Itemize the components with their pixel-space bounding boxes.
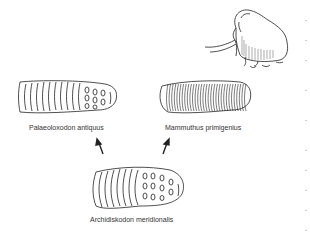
lamella-line	[208, 84, 210, 111]
edge-mark	[305, 230, 307, 231]
lamella-line	[185, 84, 187, 111]
lamella-line	[174, 84, 176, 111]
lamella-line	[219, 84, 221, 111]
edge-mark	[305, 190, 307, 191]
lamella-line	[226, 84, 228, 111]
edge-mark	[305, 170, 307, 171]
lamella-line	[232, 84, 234, 111]
edge-mark	[305, 210, 307, 211]
lamella-line	[216, 84, 218, 111]
edge-mark	[305, 120, 307, 121]
lamella-line	[195, 84, 197, 111]
lamella-line	[198, 84, 200, 111]
lamella-line	[211, 84, 213, 111]
lamella-line	[200, 84, 202, 111]
mammoth-shading	[242, 36, 273, 60]
label-archidiskodon: Archidiskodon meridionalis	[90, 216, 173, 223]
lamella-line	[213, 84, 215, 111]
edge-mark	[305, 90, 307, 91]
lamella-line	[221, 84, 223, 111]
mammoth-icon	[205, 10, 288, 68]
edge-mark	[305, 60, 307, 61]
lamella-line	[206, 84, 208, 111]
edge-mark	[305, 20, 307, 21]
edge-mark	[305, 150, 307, 151]
molar-palaeoloxodon	[19, 81, 117, 113]
lamella-line	[187, 84, 189, 111]
page-edge-marks	[305, 0, 308, 250]
lamella-line	[237, 84, 239, 111]
lamella-line	[169, 84, 171, 111]
lamella-line	[224, 84, 226, 111]
lamella-line	[229, 84, 231, 111]
molar-mammuthus	[160, 81, 251, 113]
lamella-line	[177, 84, 179, 111]
label-palaeoloxodon: Palaeoloxodon antiquus	[29, 124, 104, 131]
lamella-line	[182, 84, 184, 111]
edge-mark	[305, 40, 307, 41]
molar-archidiskodon	[93, 167, 184, 208]
lamella-line	[172, 84, 174, 111]
label-mammuthus: Mammuthus primigenius	[165, 124, 241, 131]
arrow-to-palaeoloxodon	[96, 139, 103, 154]
arrow-to-mammuthus	[163, 139, 169, 154]
lamella-line	[193, 84, 195, 111]
lamella-line	[180, 84, 182, 111]
lamella-line	[203, 84, 205, 111]
lamella-line	[167, 84, 169, 111]
lamella-line	[239, 84, 241, 111]
lamella-line	[190, 84, 192, 111]
lamella-line	[234, 84, 236, 111]
lamella-line	[242, 84, 244, 111]
